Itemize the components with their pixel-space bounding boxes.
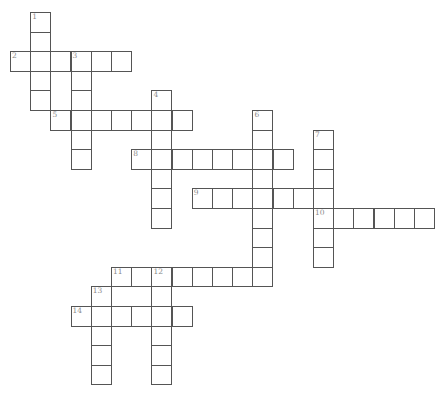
clue-number: 10 [315,209,325,217]
crossword-cell[interactable]: 2 [10,51,31,72]
crossword-cell[interactable] [252,267,273,288]
crossword-cell[interactable]: 3 [71,51,92,72]
crossword-cell[interactable] [71,130,92,151]
crossword-cell[interactable] [151,306,172,327]
crossword-cell[interactable] [212,149,233,170]
crossword-cell[interactable]: 1 [30,12,51,33]
crossword-cell[interactable] [333,208,354,229]
crossword-cell[interactable] [192,149,213,170]
crossword-cell[interactable] [91,345,112,366]
crossword-cell[interactable] [212,188,233,209]
crossword-cell[interactable]: 10 [313,208,334,229]
crossword-cell[interactable]: 14 [71,306,92,327]
clue-number: 5 [52,111,57,119]
crossword-cell[interactable] [313,247,334,268]
crossword-cell[interactable] [394,208,415,229]
crossword-cell[interactable]: 9 [192,188,213,209]
crossword-cell[interactable] [313,228,334,249]
clue-number: 2 [12,52,17,60]
crossword-cell[interactable] [273,149,294,170]
crossword-cell[interactable] [313,169,334,190]
crossword-cell[interactable] [151,365,172,386]
crossword-cell[interactable] [91,326,112,347]
crossword-cell[interactable] [50,51,71,72]
crossword-cell[interactable] [151,345,172,366]
crossword-cell[interactable] [172,110,193,131]
crossword-cell[interactable] [232,267,253,288]
crossword-cell[interactable] [172,267,193,288]
crossword-cell[interactable]: 6 [252,110,273,131]
crossword-grid: 1234567108911121314 [0,0,444,397]
clue-number: 8 [133,150,138,158]
crossword-cell[interactable] [232,188,253,209]
clue-number: 11 [113,268,123,276]
crossword-cell[interactable] [192,267,213,288]
crossword-cell[interactable] [353,208,374,229]
crossword-cell[interactable] [374,208,395,229]
crossword-cell[interactable] [91,110,112,131]
crossword-cell[interactable] [91,306,112,327]
crossword-cell[interactable] [71,71,92,92]
crossword-cell[interactable] [111,110,132,131]
crossword-cell[interactable] [151,130,172,151]
crossword-cell[interactable] [131,110,152,131]
clue-number: 13 [93,287,103,295]
crossword-cell[interactable] [232,149,253,170]
crossword-cell[interactable] [30,51,51,72]
crossword-cell[interactable] [151,188,172,209]
crossword-cell[interactable] [71,90,92,111]
crossword-cell[interactable] [151,169,172,190]
crossword-cell[interactable] [111,306,132,327]
crossword-cell[interactable] [151,326,172,347]
crossword-cell[interactable] [30,90,51,111]
crossword-cell[interactable] [131,267,152,288]
crossword-cell[interactable] [151,208,172,229]
crossword-cell[interactable] [313,149,334,170]
crossword-cell[interactable]: 4 [151,90,172,111]
crossword-cell[interactable] [71,149,92,170]
crossword-cell[interactable] [111,51,132,72]
crossword-cell[interactable] [414,208,435,229]
crossword-cell[interactable] [252,208,273,229]
crossword-cell[interactable] [151,110,172,131]
crossword-cell[interactable] [212,267,233,288]
crossword-cell[interactable]: 12 [151,267,172,288]
clue-number: 4 [153,91,158,99]
crossword-cell[interactable] [252,169,273,190]
clue-number: 12 [153,268,163,276]
crossword-cell[interactable] [30,32,51,53]
crossword-cell[interactable] [172,306,193,327]
clue-number: 7 [315,131,320,139]
crossword-cell[interactable] [151,286,172,307]
crossword-cell[interactable] [252,247,273,268]
crossword-cell[interactable] [172,149,193,170]
crossword-cell[interactable]: 5 [50,110,71,131]
clue-number: 9 [194,189,199,197]
crossword-cell[interactable]: 13 [91,286,112,307]
crossword-cell[interactable] [313,188,334,209]
crossword-cell[interactable] [252,149,273,170]
clue-number: 3 [73,52,78,60]
crossword-cell[interactable] [252,188,273,209]
crossword-cell[interactable] [71,110,92,131]
crossword-cell[interactable] [131,306,152,327]
crossword-cell[interactable] [293,188,314,209]
crossword-cell[interactable] [151,149,172,170]
crossword-cell[interactable] [30,71,51,92]
crossword-cell[interactable] [91,365,112,386]
crossword-cell[interactable] [273,188,294,209]
clue-number: 1 [32,13,37,21]
clue-number: 6 [254,111,259,119]
crossword-cell[interactable] [252,130,273,151]
crossword-cell[interactable]: 8 [131,149,152,170]
crossword-cell[interactable]: 11 [111,267,132,288]
clue-number: 14 [73,307,83,315]
crossword-cell[interactable]: 7 [313,130,334,151]
crossword-cell[interactable] [252,228,273,249]
crossword-cell[interactable] [91,51,112,72]
